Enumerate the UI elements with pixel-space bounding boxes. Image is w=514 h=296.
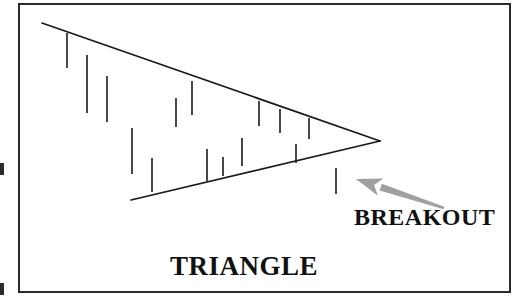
breakout-label: BREAKOUT [354,204,495,231]
figure-canvas: TRIANGLE BREAKOUT [0,0,514,296]
page-edge-mark-bottom [0,283,4,295]
triangle-label: TRIANGLE [170,251,318,282]
page-edge-mark-top [0,163,4,175]
